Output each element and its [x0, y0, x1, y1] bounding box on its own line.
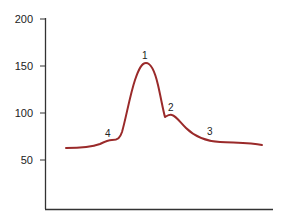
- annotation-4: 4: [105, 128, 111, 139]
- y-tick-label-150: 150: [15, 60, 33, 72]
- y-tick-label-50: 50: [21, 154, 33, 166]
- annotation-3: 3: [207, 126, 213, 137]
- data-curve: [66, 63, 262, 148]
- annotation-1: 1: [142, 50, 148, 61]
- annotation-2: 2: [168, 102, 174, 113]
- line-chart: 200 150 100 50 1 2 3 4: [0, 0, 289, 222]
- y-tick-label-200: 200: [15, 13, 33, 25]
- y-tick-label-100: 100: [15, 107, 33, 119]
